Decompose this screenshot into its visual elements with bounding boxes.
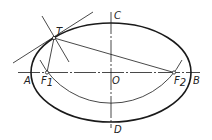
label-a: A bbox=[23, 75, 31, 86]
label-b: B bbox=[193, 75, 200, 86]
label-o: O bbox=[112, 75, 120, 86]
point-f1-marker bbox=[45, 71, 48, 74]
focal-radius-f2 bbox=[54, 38, 174, 73]
label-f2-sub: 2 bbox=[180, 77, 186, 88]
focal-radius-f1 bbox=[47, 38, 54, 73]
point-f2-marker bbox=[172, 71, 175, 74]
ellipse-diagram: T C D O A B F1 F2 bbox=[0, 0, 212, 140]
label-c: C bbox=[114, 10, 121, 21]
label-t: T bbox=[56, 26, 63, 37]
diagram-svg: T C D O A B F1 F2 bbox=[0, 0, 212, 140]
label-f2: F2 bbox=[174, 75, 186, 88]
label-f1: F1 bbox=[41, 75, 53, 88]
label-d: D bbox=[114, 124, 122, 135]
label-f1-sub: 1 bbox=[47, 77, 53, 88]
